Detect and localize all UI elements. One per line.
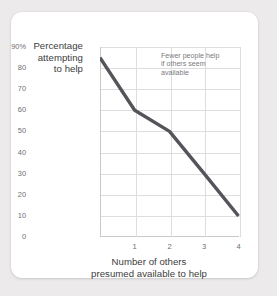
- y-tick-label-90: 90%: [0, 43, 26, 51]
- figure-card: Percentage attempting to help 90% 80 70 …: [11, 12, 258, 278]
- y-axis-title-line-2: attempting: [13, 52, 83, 64]
- data-polyline: [100, 58, 239, 216]
- chart-annotation: Fewer people help if others seem availab…: [161, 52, 241, 77]
- annotation-line-1: Fewer people help: [161, 52, 241, 60]
- y-tick-label-80: 80: [0, 64, 26, 72]
- y-tick-label-60: 60: [0, 106, 26, 114]
- annotation-line-3: available: [161, 69, 241, 77]
- x-axis-title-line-2: presumed available to help: [49, 268, 249, 280]
- x-axis-title: Number of others presumed available to h…: [49, 256, 249, 279]
- y-tick-label-0: 0: [0, 233, 26, 241]
- x-tick-label-1: 1: [127, 242, 143, 251]
- y-tick-label-20: 20: [0, 191, 26, 199]
- x-axis-title-line-1: Number of others: [49, 256, 249, 268]
- x-tick-label-3: 3: [196, 242, 212, 251]
- annotation-line-2: if others seem: [161, 60, 241, 68]
- x-tick-label-2: 2: [162, 242, 178, 251]
- y-tick-label-30: 30: [0, 170, 26, 178]
- y-tick-label-10: 10: [0, 212, 26, 220]
- y-tick-label-70: 70: [0, 85, 26, 93]
- y-tick-label-40: 40: [0, 149, 26, 157]
- y-tick-label-50: 50: [0, 127, 26, 135]
- x-tick-label-4: 4: [231, 242, 247, 251]
- line-chart: Percentage attempting to help 90% 80 70 …: [11, 12, 258, 278]
